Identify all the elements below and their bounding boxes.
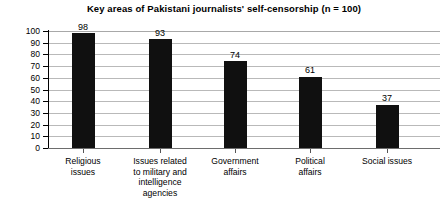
chart-title: Key areas of Pakistani journalists' self…: [0, 3, 448, 14]
bar-political-affairs[interactable]: [299, 77, 322, 148]
category-line: issues: [40, 167, 126, 178]
bar-value-religious-issues: 98: [63, 23, 103, 32]
x-category-label-political-affairs: Political affairs: [267, 156, 353, 177]
y-axis-line: [48, 30, 49, 149]
category-line: intelligence: [117, 177, 203, 188]
y-tick-label-50: 50: [14, 86, 40, 95]
x-axis-tick: [160, 149, 161, 153]
y-tick-label-30: 30: [14, 109, 40, 118]
y-tick-label-0: 0: [14, 144, 40, 153]
bar-government-affairs[interactable]: [224, 61, 247, 148]
bar-value-military-intelligence: 93: [140, 29, 180, 38]
y-tick-label-60: 60: [14, 74, 40, 83]
x-category-label-government-affairs: Government affairs: [192, 156, 278, 177]
y-tick-label-40: 40: [14, 97, 40, 106]
category-line: agencies: [117, 188, 203, 199]
category-line: Social issues: [344, 156, 430, 167]
bar-value-government-affairs: 74: [215, 51, 255, 60]
gridline-100: [48, 31, 440, 32]
x-axis-tick: [387, 149, 388, 153]
chart-screenshot: Key areas of Pakistani journalists' self…: [0, 0, 448, 211]
x-axis-tick: [310, 149, 311, 153]
y-tick-label-70: 70: [14, 62, 40, 71]
plot-area: [48, 31, 440, 148]
bar-value-social-issues: 37: [367, 94, 407, 103]
bar-military-intelligence[interactable]: [149, 39, 172, 148]
category-line: Issues related: [117, 156, 203, 167]
y-tick-label-80: 80: [14, 50, 40, 59]
x-axis-line: [48, 148, 440, 149]
x-axis-tick: [235, 149, 236, 153]
bar-value-political-affairs: 61: [290, 66, 330, 75]
bar-social-issues[interactable]: [376, 105, 399, 148]
x-category-label-religious-issues: Religious issues: [40, 156, 126, 177]
category-line: Political: [267, 156, 353, 167]
category-line: Government: [192, 156, 278, 167]
category-line: Religious: [40, 156, 126, 167]
category-line: affairs: [267, 167, 353, 178]
x-category-label-social-issues: Social issues: [344, 156, 430, 167]
bar-religious-issues[interactable]: [72, 33, 95, 148]
category-line: affairs: [192, 167, 278, 178]
x-axis-tick: [83, 149, 84, 153]
y-tick-label-10: 10: [14, 132, 40, 141]
gridline-90: [48, 43, 440, 44]
x-category-label-military-intelligence: Issues related to military and intellige…: [117, 156, 203, 198]
y-tick-label-100: 100: [14, 27, 40, 36]
y-tick-label-90: 90: [14, 39, 40, 48]
category-line: to military and: [117, 167, 203, 178]
y-tick-label-20: 20: [14, 121, 40, 130]
